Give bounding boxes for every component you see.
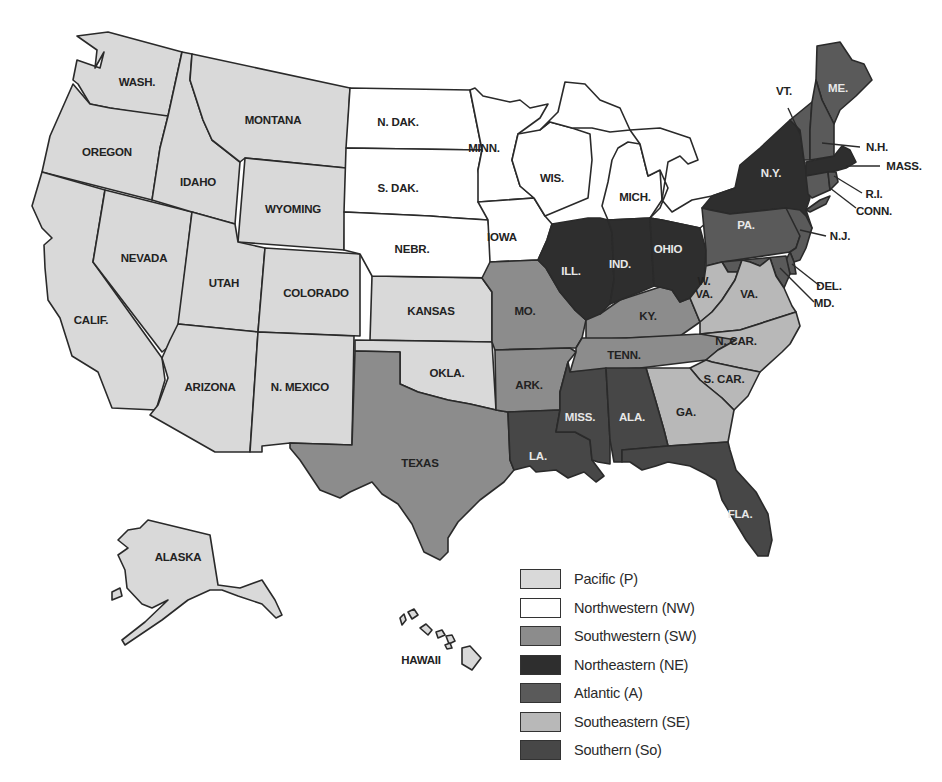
label-ny: N.Y. xyxy=(761,167,781,179)
label-del: DEL. xyxy=(816,280,841,292)
state-florida[interactable] xyxy=(622,442,772,556)
label-utah: UTAH xyxy=(209,277,239,289)
state-alaska[interactable] xyxy=(118,520,282,645)
label-nh: N.H. xyxy=(866,141,888,153)
label-vt: VT. xyxy=(776,85,792,97)
legend-label: Northeastern (NE) xyxy=(574,657,688,673)
label-mass: MASS. xyxy=(886,160,921,172)
label-nevada: NEVADA xyxy=(121,252,168,264)
label-idaho: IDAHO xyxy=(180,176,216,188)
legend-swatch xyxy=(520,598,561,618)
label-fla: FLA. xyxy=(728,508,753,520)
label-miss: MISS. xyxy=(565,411,595,423)
label-md: MD. xyxy=(814,297,834,309)
legend-item-pacific: Pacific (P) xyxy=(520,565,696,594)
legend-swatch xyxy=(520,683,561,703)
legend-label: Pacific (P) xyxy=(574,571,638,587)
legend-swatch xyxy=(520,740,561,760)
legend-label: Southwestern (SW) xyxy=(574,628,696,644)
label-ohio: OHIO xyxy=(654,243,683,255)
legend-swatch xyxy=(520,626,561,646)
label-ala: ALA. xyxy=(619,411,645,423)
label-alaska: ALASKA xyxy=(155,551,202,563)
legend-swatch xyxy=(520,569,561,589)
label-tenn: TENN. xyxy=(607,349,641,361)
legend-item-northeastern: Northeastern (NE) xyxy=(520,651,696,680)
legend-item-atlantic: Atlantic (A) xyxy=(520,679,696,708)
legend-swatch xyxy=(520,712,561,732)
label-conn: CONN. xyxy=(856,205,892,217)
label-wva-line1: W. xyxy=(697,275,710,287)
label-ark: ARK. xyxy=(515,379,542,391)
label-ga: GA. xyxy=(676,406,696,418)
legend-item-southeastern: Southeastern (SE) xyxy=(520,708,696,737)
legend-item-southern: Southern (So) xyxy=(520,736,696,765)
label-mich: MICH. xyxy=(619,191,651,203)
label-minn: MINN. xyxy=(468,142,500,154)
label-nebr: NEBR. xyxy=(395,243,430,255)
label-wis: WIS. xyxy=(540,172,564,184)
us-regions-map: WASH. OREGON CALIF. NEVADA IDAHO MONTANA… xyxy=(0,0,942,782)
legend-label: Northwestern (NW) xyxy=(574,600,695,616)
legend-label: Southeastern (SE) xyxy=(574,714,690,730)
label-ri: R.I. xyxy=(865,188,882,200)
label-nmexico: N. MEXICO xyxy=(271,381,330,393)
label-arizona: ARIZONA xyxy=(185,381,236,393)
alaska-island xyxy=(112,588,122,600)
label-me: ME. xyxy=(828,82,848,94)
legend-item-northwestern: Northwestern (NW) xyxy=(520,594,696,623)
label-ncar: N. CAR. xyxy=(715,335,756,347)
label-ill: ILL. xyxy=(561,265,581,277)
label-texas: TEXAS xyxy=(401,457,439,469)
label-mo: MO. xyxy=(514,305,535,317)
label-va: VA. xyxy=(740,288,758,300)
label-ky: KY. xyxy=(639,310,656,322)
label-nj: N.J. xyxy=(830,230,850,242)
label-la: LA. xyxy=(529,450,547,462)
legend-label: Southern (So) xyxy=(574,742,662,758)
label-hawaii: HAWAII xyxy=(401,654,441,666)
legend-swatch xyxy=(520,655,561,675)
label-montana: MONTANA xyxy=(245,114,302,126)
state-rhode-island[interactable] xyxy=(828,172,838,190)
label-ind: IND. xyxy=(609,258,631,270)
label-calif: CALIF. xyxy=(74,314,109,326)
label-iowa: IOWA xyxy=(487,231,517,243)
label-pa: PA. xyxy=(737,219,755,231)
label-wva-line2: VA. xyxy=(695,288,713,300)
state-connecticut[interactable] xyxy=(806,172,830,198)
label-okla: OKLA. xyxy=(430,367,465,379)
label-kansas: KANSAS xyxy=(407,305,455,317)
label-scar: S. CAR. xyxy=(704,373,745,385)
label-wyoming: WYOMING xyxy=(265,203,321,215)
label-wash: WASH. xyxy=(119,76,156,88)
map-legend: Pacific (P) Northwestern (NW) Southweste… xyxy=(520,565,696,765)
legend-label: Atlantic (A) xyxy=(574,685,643,701)
label-ndak: N. DAK. xyxy=(377,116,418,128)
label-sdak: S. DAK. xyxy=(378,182,419,194)
legend-item-southwestern: Southwestern (SW) xyxy=(520,622,696,651)
label-oregon: OREGON xyxy=(82,146,132,158)
label-colorado: COLORADO xyxy=(283,287,349,299)
